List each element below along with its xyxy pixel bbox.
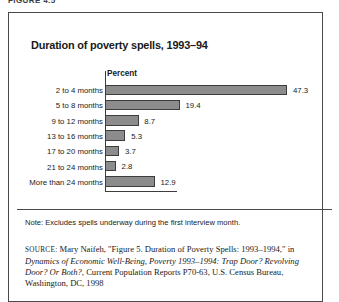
bar-value-label: 47.3: [293, 86, 308, 95]
bar-area: 47.3: [105, 83, 332, 98]
bar-area: 5.3: [105, 129, 332, 144]
bar-chart-plot: 2 to 4 months 47.3 5 to 8 months 19.4 9 …: [17, 83, 332, 205]
bar-area: 19.4: [105, 98, 332, 113]
chart-title: Duration of poverty spells, 1993–94: [31, 39, 208, 51]
chart-panel: Duration of poverty spells, 1993–94 Perc…: [17, 25, 332, 210]
bar-area: 2.8: [105, 159, 332, 174]
bar-row: More than 24 months 12.9: [17, 175, 332, 190]
source-label: SOURCE:: [25, 246, 57, 254]
bar-value-label: 5.3: [131, 132, 142, 141]
bar-category-label: More than 24 months: [17, 178, 103, 187]
source-citation: SOURCE: Mary Naifeh, "Figure 5. Duration…: [25, 244, 320, 290]
bar-area: 8.7: [105, 114, 332, 129]
source-line1: Mary Naifeh, "Figure 5. Duration of Pove…: [57, 244, 239, 254]
source-publication-title: Dynamics of Economic Well-Being, Poverty…: [25, 256, 219, 266]
source-line2: 1993–1994," in: [241, 244, 294, 254]
source-line3: , Current Population Reports: [82, 267, 181, 277]
bar: [105, 115, 139, 125]
figure-caption: FIGURE 4.5: [8, 0, 56, 4]
bar-value-label: 2.8: [122, 162, 133, 171]
bar-value-label: 8.7: [144, 117, 155, 126]
bar-category-label: 5 to 8 months: [17, 101, 103, 110]
bar-value-label: 3.7: [125, 147, 136, 156]
figure-frame: Duration of poverty spells, 1993–94 Perc…: [8, 12, 323, 302]
bar-category-label: 13 to 16 months: [17, 132, 103, 141]
bar-row: 17 to 20 months 3.7: [17, 144, 332, 159]
bar: [105, 100, 180, 110]
bar: [105, 85, 287, 95]
bar-row: 21 to 24 months 2.8: [17, 159, 332, 174]
bar-area: 3.7: [105, 144, 332, 159]
bar-category-label: 2 to 4 months: [17, 86, 103, 95]
x-axis-baseline: [105, 191, 177, 192]
bar: [105, 176, 155, 186]
bar-row: 5 to 8 months 19.4: [17, 98, 332, 113]
bar: [105, 161, 116, 171]
bar-value-label: 12.9: [161, 178, 176, 187]
bar-value-label: 19.4: [186, 101, 201, 110]
bar-row: 13 to 16 months 5.3: [17, 129, 332, 144]
bar-category-label: 9 to 12 months: [17, 117, 103, 126]
bar-category-label: 21 to 24 months: [17, 163, 103, 172]
bar: [105, 130, 125, 140]
bar-category-label: 17 to 20 months: [17, 147, 103, 156]
chart-note: Note: Excludes spells underway during th…: [25, 218, 315, 227]
bar-row: 2 to 4 months 47.3: [17, 83, 332, 98]
axis-label-percent: Percent: [107, 69, 137, 78]
bar: [105, 146, 119, 156]
bar-area: 12.9: [105, 175, 332, 190]
bar-row: 9 to 12 months 8.7: [17, 114, 332, 129]
